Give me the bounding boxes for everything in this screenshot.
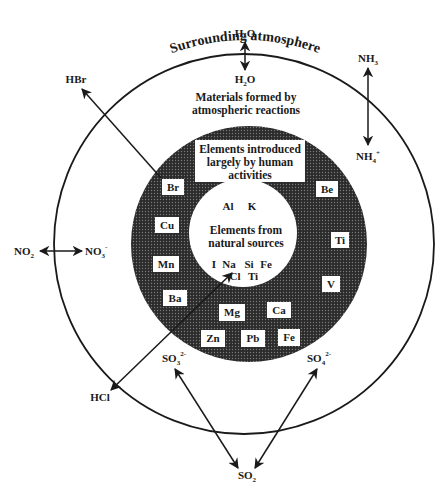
element-box-pb: Pb: [241, 330, 265, 347]
species-so3: SO32-: [162, 350, 187, 367]
svg-text:Be: Be: [321, 183, 333, 195]
element-box-v: V: [322, 276, 340, 292]
natural-zone-label-line1: Elements from: [210, 224, 283, 236]
br-to-hbr-arrow: [82, 89, 161, 178]
element-box-mg: Mg: [219, 304, 245, 321]
species-hbr: HBr: [66, 73, 87, 85]
so3-so2-arrow: [175, 369, 238, 468]
element-ti-natural: Ti: [248, 270, 258, 282]
species-hcl: HCl: [90, 391, 110, 403]
atmosphere-diagram: Surrounding atmosphere Materials formed …: [0, 0, 436, 491]
element-k: K: [248, 200, 257, 212]
outer-zone-label-line2: atmospheric reactions: [192, 104, 301, 117]
element-fe-natural: Fe: [260, 258, 272, 270]
svg-text:V: V: [327, 278, 335, 290]
species-nh3: NH3: [358, 52, 379, 67]
svg-text:Ti: Ti: [335, 234, 345, 246]
species-nh4: NH4+: [356, 149, 380, 165]
species-no2: NO2: [14, 245, 35, 260]
element-na: Na: [222, 258, 236, 270]
element-box-ba: Ba: [163, 290, 187, 306]
element-box-br: Br: [162, 179, 184, 195]
svg-text:Ba: Ba: [169, 292, 182, 304]
element-cl: Cl: [230, 270, 241, 282]
svg-text:Cu: Cu: [160, 219, 174, 231]
natural-zone-label-line2: natural sources: [208, 237, 284, 249]
svg-text:Mg: Mg: [224, 306, 240, 318]
species-h2o-aerosol: H2O: [235, 73, 256, 88]
svg-text:Fe: Fe: [283, 331, 295, 343]
svg-text:Zn: Zn: [206, 332, 219, 344]
element-si: Si: [244, 258, 253, 270]
element-box-be: Be: [316, 181, 338, 197]
species-no3: NO3-: [85, 243, 108, 260]
element-box-mn: Mn: [153, 256, 179, 272]
human-zone-label-line2: largely by human: [207, 156, 294, 169]
outer-zone-label-line1: Materials formed by: [196, 91, 297, 104]
element-box-zn: Zn: [201, 330, 225, 347]
human-zone-label-line1: Elements introduced: [199, 143, 301, 155]
svg-text:Pb: Pb: [247, 332, 260, 344]
element-box-fe: Fe: [278, 329, 300, 346]
species-so2: SO2: [238, 469, 257, 484]
human-zone-label-line3: activities: [228, 169, 272, 181]
svg-text:Ca: Ca: [272, 304, 286, 316]
element-al: Al: [223, 200, 234, 212]
element-box-cu: Cu: [155, 217, 179, 233]
species-so4: SO42-: [307, 350, 332, 367]
element-box-ti: Ti: [331, 232, 349, 248]
element-i: I: [212, 258, 216, 270]
svg-text:Br: Br: [167, 181, 179, 193]
svg-text:Mn: Mn: [158, 258, 175, 270]
element-box-ca: Ca: [267, 302, 291, 318]
so4-so2-arrow: [255, 369, 317, 468]
